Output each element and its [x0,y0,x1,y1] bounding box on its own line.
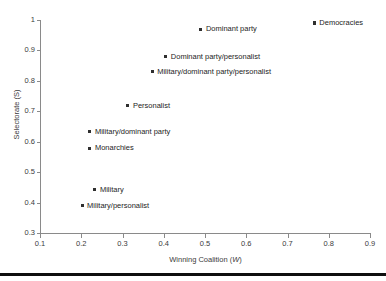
x-tick-mark [40,234,41,238]
y-tick-label: 0.5 [0,167,35,176]
x-axis-title-tail: ) [239,255,242,264]
point-label: Military/personalist [87,201,149,210]
point-marker [88,130,91,133]
y-tick-label: 0.8 [0,76,35,85]
x-tick-mark [329,234,330,238]
x-axis-title: Winning Coalition (W) [40,255,371,264]
x-tick-label: 0.6 [231,239,261,248]
point-marker [151,70,154,73]
x-tick-label: 0.9 [355,239,385,248]
x-tick-mark [164,234,165,238]
point-label: Military [100,185,124,194]
x-tick-label: 0.4 [149,239,179,248]
point-marker [81,204,84,207]
x-tick-mark [123,234,124,238]
y-tick-mark [37,142,41,143]
point-marker [164,55,167,58]
point-label: Military/dominant party/personalist [157,67,271,76]
point-label: Personalist [133,101,170,110]
bottom-divider-rule [0,273,386,276]
x-tick-mark [370,234,371,238]
x-tick-mark [246,234,247,238]
point-marker [88,147,91,150]
point-marker [126,104,129,107]
x-tick-mark [81,234,82,238]
point-label: Dominant party/personalist [171,52,260,61]
x-tick-mark [205,234,206,238]
x-tick-label: 0.5 [190,239,220,248]
y-tick-label: 0.7 [0,106,35,115]
point-marker [313,21,316,24]
y-tick-mark [37,50,41,51]
y-tick-mark [37,203,41,204]
x-tick-label: 0.3 [108,239,138,248]
scatter-chart-figure: Selectorate (S) Winning Coalition (W) 0.… [0,0,386,281]
y-tick-mark [37,111,41,112]
y-tick-label: 0.3 [0,228,35,237]
x-axis-title-text: Winning Coalition ( [169,255,232,264]
point-marker [93,188,96,191]
point-label: Democracies [319,18,363,27]
x-tick-mark [288,234,289,238]
y-tick-mark [37,172,41,173]
point-label: Military/dominant party [95,127,170,136]
x-tick-label: 0.2 [66,239,96,248]
y-tick-mark [37,20,41,21]
x-tick-label: 0.1 [25,239,55,248]
y-tick-label: 1 [0,15,35,24]
x-tick-label: 0.8 [314,239,344,248]
point-label: Dominant party [206,24,257,33]
point-marker [199,28,202,31]
y-tick-label: 0.9 [0,45,35,54]
chart-title [0,0,386,2]
y-tick-mark [37,81,41,82]
y-tick-label: 0.4 [0,198,35,207]
y-tick-label: 0.6 [0,137,35,146]
x-tick-label: 0.7 [273,239,303,248]
point-label: Monarchies [95,143,134,152]
